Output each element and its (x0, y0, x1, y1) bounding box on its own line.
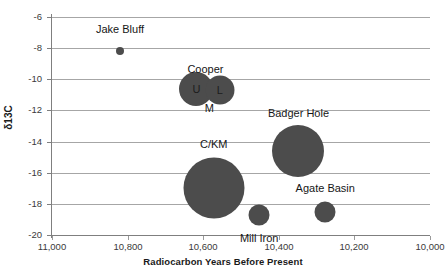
bubble-jake-bluff[interactable] (116, 47, 124, 55)
point-label-agate-basin: Agate Basin (296, 182, 355, 194)
gridline-y-3 (52, 110, 430, 111)
y-tick-mark-3 (47, 110, 51, 111)
y-tick-mark-1 (47, 48, 51, 49)
x-axis-title: Radiocarbon Years Before Present (0, 256, 446, 267)
bubble-c-km[interactable] (183, 158, 244, 219)
y-tick-mark-6 (47, 204, 51, 205)
group-label-cooper-middle: M (205, 102, 214, 114)
point-label-c-km: C/KM (200, 138, 228, 150)
y-tick-label-5: -16 (14, 168, 42, 178)
x-tick-label-0: 11,000 (29, 241, 75, 252)
gridline-y-2 (52, 79, 430, 80)
y-tick-mark-2 (47, 79, 51, 80)
x-tick-mark-3 (279, 236, 280, 240)
gridline-y-6 (52, 204, 430, 205)
y-tick-mark-4 (47, 142, 51, 143)
x-tick-label-4: 10,200 (331, 241, 377, 252)
bubble-inner-label-u: U (192, 83, 200, 94)
x-tick-mark-1 (128, 236, 129, 240)
bubble-agate-basin[interactable] (315, 201, 336, 222)
y-tick-label-1: -8 (14, 43, 42, 53)
y-tick-mark-7 (47, 235, 51, 236)
x-tick-label-5: 10,000 (407, 241, 446, 252)
bubble-chart: -6-8-10-12-14-16-18-20 11,00010,80010,60… (0, 0, 446, 276)
y-tick-label-6: -18 (14, 199, 42, 209)
y-axis-title: δ13C (3, 88, 14, 148)
x-tick-label-2: 10,600 (180, 241, 226, 252)
point-label-jake-bluff: Jake Bluff (96, 23, 144, 35)
x-tick-mark-5 (430, 236, 431, 240)
x-tick-mark-2 (203, 236, 204, 240)
gridline-y-1 (52, 48, 430, 49)
bubble-inner-label-l: L (217, 85, 223, 96)
y-tick-label-0: -6 (14, 12, 42, 22)
gridline-y-0 (52, 17, 430, 18)
y-tick-label-4: -14 (14, 137, 42, 147)
bubble-badger-hole[interactable] (272, 125, 324, 177)
y-tick-mark-5 (47, 173, 51, 174)
point-label-badger-hole: Badger Hole (268, 107, 329, 119)
y-tick-label-2: -10 (14, 74, 42, 84)
x-tick-mark-4 (354, 236, 355, 240)
group-label-cooper: Cooper (187, 63, 223, 75)
y-axis-line (51, 14, 52, 238)
bubble-mill-iron[interactable] (249, 204, 270, 225)
y-tick-label-3: -12 (14, 105, 42, 115)
x-tick-label-1: 10,800 (105, 241, 151, 252)
y-tick-label-7: -20 (14, 230, 42, 240)
y-tick-mark-0 (47, 17, 51, 18)
x-tick-mark-0 (52, 236, 53, 240)
point-label-mill-iron: Mill Iron (240, 232, 279, 244)
gridline-y-4 (52, 142, 430, 143)
